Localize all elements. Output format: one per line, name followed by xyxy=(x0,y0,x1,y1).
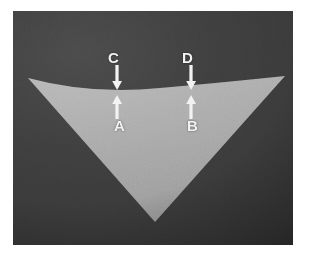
arrow-a-up xyxy=(112,95,122,119)
label-c: C xyxy=(108,50,119,65)
label-a: A xyxy=(114,118,125,133)
arrow-b-up xyxy=(186,95,196,119)
photo-backdrop xyxy=(13,11,293,245)
label-b: B xyxy=(187,118,198,133)
arrow-d-down xyxy=(186,65,196,90)
arrow-layer xyxy=(13,11,293,245)
label-d: D xyxy=(182,50,193,65)
arrow-c-down xyxy=(112,65,122,90)
figure-canvas: C D A B xyxy=(0,0,310,255)
